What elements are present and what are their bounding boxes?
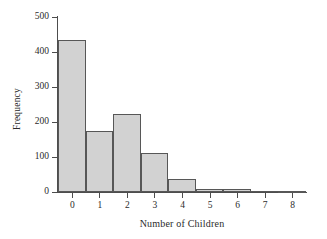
histogram-bar [113, 114, 141, 192]
x-axis-tick: 6 [237, 192, 238, 198]
histogram-bar [141, 153, 169, 192]
plot-area [58, 17, 306, 192]
x-axis-tick: 0 [72, 192, 73, 198]
histogram-bar [223, 189, 251, 192]
x-axis-tick-label: 4 [172, 200, 193, 210]
y-axis-tick-label: 300 [35, 81, 49, 91]
y-axis-label: Frequency [12, 69, 22, 149]
histogram-figure: Frequency 0100200300400500 012345678 Num… [0, 0, 327, 239]
x-axis-tick: 4 [182, 192, 183, 198]
x-axis-tick-label: 1 [89, 200, 110, 210]
y-axis-tick-label: 400 [35, 46, 49, 56]
x-axis-tick: 1 [99, 192, 100, 198]
y-axis-tick-label: 200 [35, 116, 49, 126]
histogram-bar [196, 189, 224, 193]
y-axis-tick-label: 0 [44, 186, 49, 196]
x-axis-tick-label: 5 [200, 200, 221, 210]
y-axis-tick: 0 [52, 192, 58, 193]
histogram-bar [168, 179, 196, 192]
y-axis-tick-label: 100 [35, 151, 49, 161]
x-axis-tick-label: 3 [144, 200, 165, 210]
x-axis-tick-label: 0 [62, 200, 83, 210]
x-axis-tick-label: 8 [282, 200, 303, 210]
x-axis-tick: 7 [265, 192, 266, 198]
x-axis-tick-label: 7 [255, 200, 276, 210]
histogram-bar [278, 191, 306, 193]
x-axis-tick: 2 [127, 192, 128, 198]
x-axis-tick: 5 [210, 192, 211, 198]
x-axis-tick-label: 6 [227, 200, 248, 210]
histogram-bar [58, 40, 86, 192]
y-axis-tick-label: 500 [35, 11, 49, 21]
histogram-bar [86, 131, 114, 192]
histogram-bar [251, 191, 279, 192]
x-axis-tick: 3 [154, 192, 155, 198]
x-axis-label: Number of Children [58, 218, 306, 229]
x-axis-tick-label: 2 [117, 200, 138, 210]
